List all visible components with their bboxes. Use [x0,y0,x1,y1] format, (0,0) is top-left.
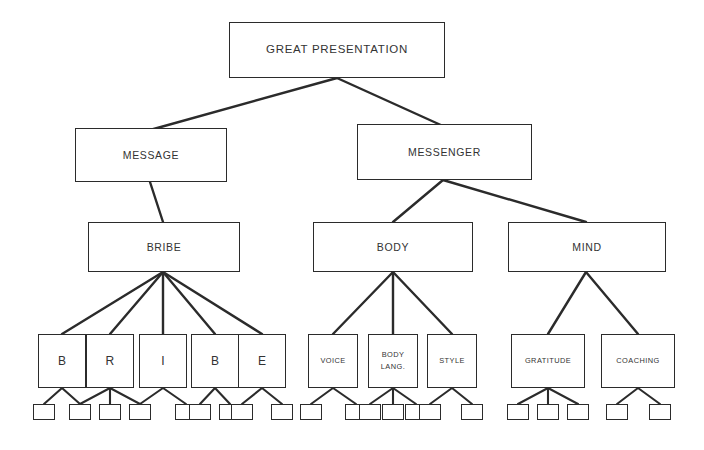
node-bribe-letter-b2[interactable]: B [191,334,239,388]
node-label: COACHING [616,357,659,366]
node-great-presentation[interactable]: GREAT PRESENTATION [229,22,445,78]
node-bribe-letter-b1[interactable]: B [38,334,86,388]
node-label: GRATITUDE [525,357,571,366]
diagram-canvas: GREAT PRESENTATION MESSAGE MESSENGER BRI… [0,0,704,450]
node-label: VOICE [320,357,345,366]
leaf-node[interactable] [129,404,151,420]
node-label-multiline: BODY LANG. [381,351,405,371]
node-label: BRIBE [147,241,182,253]
node-label: STYLE [439,357,465,366]
leaf-node[interactable] [507,404,529,420]
leaf-node[interactable] [382,404,404,420]
node-label: MESSAGE [123,149,179,161]
node-label: GREAT PRESENTATION [266,43,408,57]
node-bribe-letter-e[interactable]: E [238,334,286,388]
leaf-node[interactable] [231,404,253,420]
leaf-node[interactable] [649,404,671,420]
leaf-node[interactable] [33,404,55,420]
leaf-node[interactable] [99,404,121,420]
node-mind[interactable]: MIND [508,222,666,272]
node-label: MESSENGER [408,146,481,158]
leaf-node[interactable] [567,404,589,420]
node-bribe[interactable]: BRIBE [88,222,240,272]
node-style[interactable]: STYLE [427,334,477,388]
leaf-node[interactable] [537,404,559,420]
leaf-node[interactable] [606,404,628,420]
node-gratitude[interactable]: GRATITUDE [511,334,585,388]
leaf-node[interactable] [69,404,91,420]
leaf-node[interactable] [419,404,441,420]
node-messenger[interactable]: MESSENGER [357,124,532,180]
leaf-node[interactable] [271,404,293,420]
leaf-node[interactable] [359,404,381,420]
node-label: MIND [572,241,601,253]
node-bribe-letter-r[interactable]: R [86,334,134,388]
node-label: B [211,354,219,368]
leaf-node[interactable] [300,404,322,420]
node-label-line1: BODY [382,350,405,359]
node-label: BODY [377,241,409,253]
node-label: E [258,354,266,368]
node-label-line2: LANG. [381,363,405,372]
node-label: B [58,354,66,368]
node-body[interactable]: BODY [313,222,473,272]
node-bribe-letter-i[interactable]: I [139,334,187,388]
leaf-node[interactable] [461,404,483,420]
node-label: R [106,354,115,368]
node-body-language[interactable]: BODY LANG. [368,334,418,388]
node-coaching[interactable]: COACHING [601,334,675,388]
node-voice[interactable]: VOICE [308,334,358,388]
node-label: I [161,354,165,368]
node-message[interactable]: MESSAGE [75,128,227,182]
leaf-node[interactable] [189,404,211,420]
